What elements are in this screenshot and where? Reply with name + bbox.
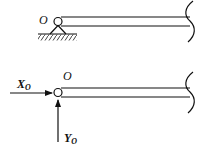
bottom-free-body-diagram: O XO YO <box>10 69 194 146</box>
pin-label-o-bottom: O <box>63 69 72 83</box>
support-triangle-icon <box>50 26 66 35</box>
pin-joint-icon <box>54 18 62 26</box>
beam-free-body-diagram: O O XO YO <box>0 0 204 149</box>
force-y-label: YO <box>64 131 77 146</box>
force-x-label: XO <box>16 77 31 92</box>
break-line-icon <box>186 1 194 42</box>
top-beam-diagram: O <box>38 1 194 42</box>
pin-joint-icon <box>54 89 62 97</box>
pin-label-o-top: O <box>39 13 48 27</box>
ground-hatching <box>38 35 77 41</box>
break-line-icon <box>186 72 194 113</box>
